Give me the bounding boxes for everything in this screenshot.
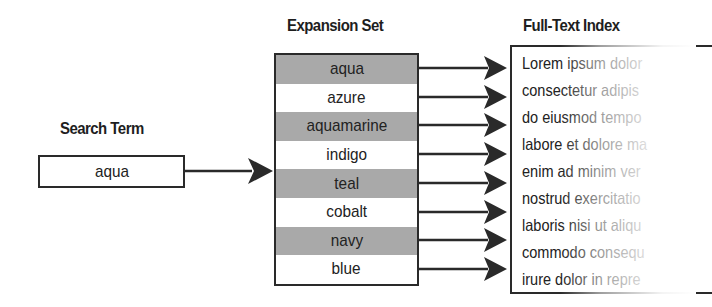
expansion-to-index-arrows <box>418 56 507 281</box>
